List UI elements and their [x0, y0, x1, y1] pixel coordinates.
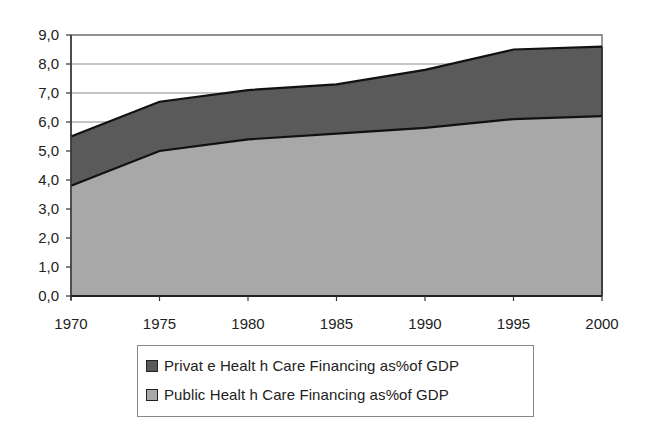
x-tick-label: 1975: [143, 315, 176, 332]
y-axis-labels: 0,01,02,03,04,05,06,07,08,09,0: [38, 26, 59, 304]
legend-item-private: Privat e Healt h Care Financing as%of GD…: [146, 357, 459, 374]
y-tick-label: 6,0: [38, 113, 59, 130]
legend-label-public: Public Healt h Care Financing as%of GDP: [164, 386, 449, 403]
y-tick-label: 2,0: [38, 229, 59, 246]
legend-item-public: Public Healt h Care Financing as%of GDP: [146, 386, 449, 403]
x-tick-label: 1995: [497, 315, 530, 332]
y-tick-label: 7,0: [38, 84, 59, 101]
y-tick-label: 1,0: [38, 258, 59, 275]
x-tick-label: 2000: [585, 315, 618, 332]
y-tick-label: 3,0: [38, 200, 59, 217]
y-tick-label: 8,0: [38, 55, 59, 72]
y-tick-label: 5,0: [38, 142, 59, 159]
legend-swatch-private: [146, 360, 158, 372]
y-tick-label: 0,0: [38, 287, 59, 304]
y-tick-label: 9,0: [38, 26, 59, 43]
y-tick-label: 4,0: [38, 171, 59, 188]
x-tick-label: 1980: [231, 315, 264, 332]
x-tick-label: 1970: [54, 315, 87, 332]
x-tick-label: 1985: [320, 315, 353, 332]
x-axis-labels: 1970197519801985199019952000: [54, 315, 618, 332]
legend: Privat e Healt h Care Financing as%of GD…: [137, 345, 534, 417]
legend-label-private: Privat e Healt h Care Financing as%of GD…: [164, 357, 459, 374]
x-tick-label: 1990: [408, 315, 441, 332]
legend-swatch-public: [146, 389, 158, 401]
